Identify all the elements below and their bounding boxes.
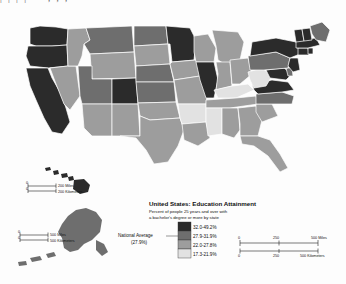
state-KS[interactable] <box>136 82 176 103</box>
state-IN[interactable] <box>216 62 232 90</box>
alaska-scale-km-t0: 0 <box>18 236 20 240</box>
legend-label-4: 17.3-21.9% <box>193 252 217 257</box>
state-HI-island-4[interactable] <box>68 176 74 181</box>
map-title: United States: Education Attainment <box>149 200 256 207</box>
state-WY[interactable] <box>90 52 136 79</box>
state-AK-aleutians-2[interactable] <box>30 256 42 262</box>
alaska-scale-miles-t0: 0 <box>18 230 20 234</box>
state-NH[interactable] <box>302 28 312 41</box>
state-AK-aleutians-1[interactable] <box>46 252 56 258</box>
legend-label-1: 32.0-49.2% <box>193 225 217 230</box>
map-subtitle-line2: a bachelor's degree or more by state <box>149 215 219 220</box>
state-AZ[interactable] <box>82 104 112 136</box>
legend-swatch-4[interactable] <box>178 249 191 258</box>
state-MN[interactable] <box>166 26 196 62</box>
state-MT[interactable] <box>84 26 134 54</box>
state-AK-panhandle[interactable] <box>96 240 108 256</box>
state-SD[interactable] <box>134 44 170 66</box>
legend-label-3: 22.0-27.8% <box>193 243 217 248</box>
state-ND[interactable] <box>134 26 168 46</box>
state-RI[interactable] <box>308 48 313 54</box>
legend-swatch-1[interactable] <box>178 222 191 231</box>
state-MS[interactable] <box>206 108 222 136</box>
hawaii-scale-miles-t0: 0 <box>26 181 28 185</box>
state-WA[interactable] <box>30 26 68 46</box>
state-HI-island-2[interactable] <box>53 170 59 175</box>
map-page: | | | | ' ' , , , <box>0 0 346 284</box>
main-scale-miles-t2: 500 Miles <box>311 236 327 240</box>
state-HI-island-1[interactable] <box>45 167 51 171</box>
lower-48-states <box>26 22 330 172</box>
state-HI-island-3[interactable] <box>61 173 68 178</box>
main-scale-km-t2: 500 Kilometers <box>300 254 325 258</box>
state-WI[interactable] <box>194 34 216 62</box>
main-scale-km-t0: 0 <box>238 254 240 258</box>
map-subtitle-line1: Percent of people 25 years and over with <box>149 209 228 214</box>
map-title-block: United States: Education Attainment Perc… <box>149 200 256 220</box>
state-AL[interactable] <box>222 108 240 138</box>
alaska-scale-miles-t1: 500 Miles <box>50 233 66 237</box>
alaska-scale-km-t1: 500 Kilometers <box>50 239 75 243</box>
legend-label-2: 27.9-31.9% <box>193 234 217 239</box>
state-LA[interactable] <box>182 122 210 146</box>
state-OR[interactable] <box>26 45 68 68</box>
main-scale-km-t1: 250 <box>273 254 279 258</box>
inset-alaska: 0 500 Miles 0 500 Kilometers <box>18 208 108 266</box>
state-AK[interactable] <box>58 208 102 252</box>
main-scale-miles-t1: 250 <box>273 236 279 240</box>
state-AK-aleutians-3[interactable] <box>18 261 27 266</box>
hawaii-scale-miles-t1: 200 Miles <box>58 184 74 188</box>
national-average-value: (27.9%) <box>131 240 148 245</box>
state-NM[interactable] <box>112 104 140 136</box>
legend-swatch-3[interactable] <box>178 240 191 249</box>
map-legend: 32.0-49.2% 27.9-31.9% 22.0-27.8% 17.3-21… <box>118 222 217 258</box>
scalebar-main: 0 250 500 Miles 0 250 500 Kilometers <box>238 236 327 258</box>
state-OK[interactable] <box>138 102 180 120</box>
legend-swatch-2[interactable] <box>178 231 191 240</box>
national-average-label: National Average <box>118 233 153 238</box>
us-choropleth-map: 0 200 Miles 0 200 Kilometers 0 500 <box>0 0 346 284</box>
inset-hawaii: 0 200 Miles 0 200 Kilometers <box>26 167 90 194</box>
main-scale-miles-t0: 0 <box>238 236 240 240</box>
hawaii-scale-km-t1: 200 Kilometers <box>58 190 83 194</box>
state-NE[interactable] <box>136 64 174 82</box>
state-CO[interactable] <box>112 78 138 104</box>
state-AR[interactable] <box>178 104 206 124</box>
hawaii-scale-km-t0: 0 <box>26 187 28 191</box>
state-CT[interactable] <box>298 48 309 55</box>
state-FL[interactable] <box>240 136 288 172</box>
